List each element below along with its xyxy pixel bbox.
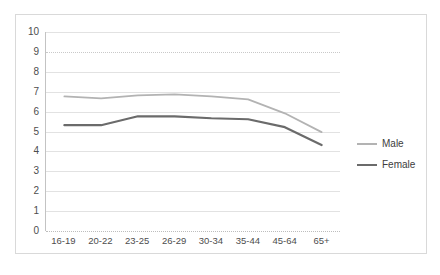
plot-area	[45, 32, 340, 231]
y-tick-label-10: 10	[28, 27, 39, 37]
x-tick-label-26-29: 26-29	[162, 236, 186, 246]
x-tick-label-45-64: 45-64	[273, 236, 297, 246]
y-tick-label-2: 2	[33, 186, 39, 196]
x-tick-label-30-34: 30-34	[199, 236, 223, 246]
x-tick-label-20-22: 20-22	[88, 236, 112, 246]
y-tick-label-6: 6	[33, 107, 39, 117]
x-axis: 16-1920-2223-2526-2930-3435-4445-6465+	[45, 236, 340, 252]
y-tick-label-0: 0	[33, 226, 39, 236]
chart-legend: Male Female	[357, 133, 423, 175]
y-tick-label-1: 1	[33, 206, 39, 216]
legend-swatch-female-icon	[357, 164, 377, 166]
y-tick-label-4: 4	[33, 146, 39, 156]
y-tick-label-8: 8	[33, 67, 39, 77]
legend-swatch-male-icon	[357, 143, 377, 145]
y-tick-label-7: 7	[33, 87, 39, 97]
x-tick-label-16-19: 16-19	[51, 236, 75, 246]
x-tick-label-35-44: 35-44	[236, 236, 260, 246]
legend-label-female: Female	[382, 160, 415, 170]
chart-figure: 012345678910 16-1920-2223-2526-2930-3435…	[15, 14, 427, 254]
gridline-0	[46, 231, 340, 232]
x-tick-label-23-25: 23-25	[125, 236, 149, 246]
y-axis: 012345678910	[16, 32, 43, 231]
x-tick-label-65+: 65+	[314, 236, 330, 246]
y-tick-label-3: 3	[33, 166, 39, 176]
series-line-female	[64, 116, 321, 145]
legend-item-male: Male	[357, 133, 423, 154]
legend-item-female: Female	[357, 154, 423, 175]
legend-label-male: Male	[382, 139, 404, 149]
y-tick-label-9: 9	[33, 47, 39, 57]
series-layer	[46, 32, 340, 230]
y-tick-label-5: 5	[33, 127, 39, 137]
